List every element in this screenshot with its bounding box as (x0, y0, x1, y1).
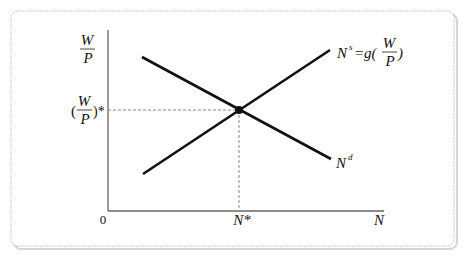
y-axis-label-denominator: P (82, 50, 92, 66)
eq-wage-close: )* (93, 104, 105, 120)
eq-wage-denominator: P (79, 111, 89, 127)
labor-market-diagram: W P ( W P )* N s =g( W P ) N d 0 N* N (0, 0, 469, 261)
x-axis-label: N (373, 212, 385, 228)
eq-wage-open-paren: ( (71, 103, 76, 120)
supply-label-denominator: P (384, 53, 394, 69)
eq-wage-numerator: W (78, 93, 92, 109)
eq-employment-label: N* (232, 212, 251, 228)
supply-label-eq: =g( (354, 45, 378, 62)
supply-label-sup: s (349, 42, 353, 52)
demand-label-sup: d (348, 152, 353, 162)
origin-label: 0 (100, 212, 107, 227)
demand-label-base: N (335, 155, 347, 171)
equilibrium-point (235, 106, 243, 114)
supply-label-numerator: W (383, 35, 397, 51)
supply-label-base: N (336, 45, 348, 61)
supply-label-close: ) (397, 45, 403, 62)
y-axis-label-numerator: W (81, 32, 95, 48)
